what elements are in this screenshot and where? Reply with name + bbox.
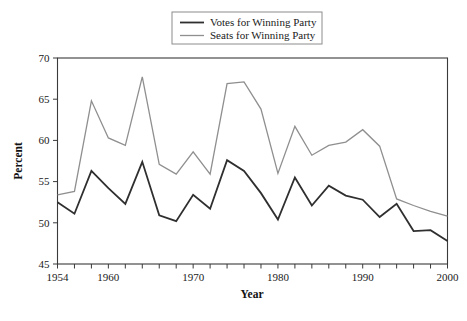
chart-background <box>0 0 467 321</box>
x-tick-label: 2000 <box>437 271 460 283</box>
chart-figure: 455055606570 195419601970198019902000 Pe… <box>0 0 467 321</box>
y-tick-label: 70 <box>39 52 51 64</box>
x-tick-label: 1990 <box>352 271 375 283</box>
y-axis-title: Percent <box>12 142 24 180</box>
legend-label-votes: Votes for Winning Party <box>210 16 317 28</box>
x-tick-label: 1960 <box>97 271 120 283</box>
y-tick-label: 55 <box>39 175 51 187</box>
x-tick-label: 1980 <box>267 271 290 283</box>
x-axis-title: Year <box>241 288 264 300</box>
y-tick-label: 60 <box>39 134 51 146</box>
x-tick-label: 1954 <box>47 271 70 283</box>
legend-label-seats: Seats for Winning Party <box>210 29 316 41</box>
percent-by-year-line-chart: 455055606570 195419601970198019902000 Pe… <box>0 0 467 321</box>
x-tick-label: 1970 <box>182 271 205 283</box>
y-tick-label: 65 <box>39 93 51 105</box>
chart-legend: Votes for Winning PartySeats for Winning… <box>172 12 322 44</box>
y-tick-label: 50 <box>39 217 51 229</box>
y-tick-label: 45 <box>39 258 51 270</box>
